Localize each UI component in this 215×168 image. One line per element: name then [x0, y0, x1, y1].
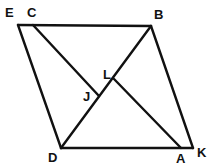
segment-LA [114, 79, 181, 148]
label-L: L [103, 67, 111, 82]
segment-CJ [33, 25, 99, 96]
segment-DB [61, 26, 151, 148]
segment-EB [18, 25, 151, 26]
label-K: K [197, 145, 207, 160]
segment-ED [18, 25, 61, 148]
label-D: D [48, 150, 57, 165]
label-J: J [83, 89, 90, 104]
segment-BK [151, 26, 193, 148]
geometry-diagram: E C B D A K L J [0, 0, 215, 168]
label-A: A [176, 151, 186, 166]
label-E: E [5, 5, 14, 20]
label-C: C [27, 5, 37, 20]
label-B: B [154, 7, 163, 22]
